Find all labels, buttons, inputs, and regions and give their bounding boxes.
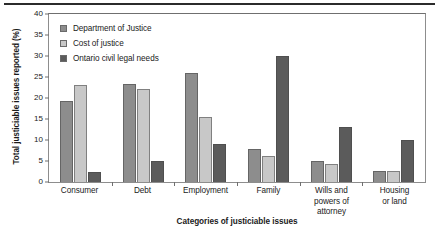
bar-groups [49, 14, 425, 182]
x-axis-label: Debt [111, 186, 174, 218]
bar [213, 144, 226, 182]
bar [387, 171, 400, 182]
bar [248, 149, 261, 182]
y-tick-label: 0 [9, 178, 49, 186]
y-tick-label: 30 [9, 52, 49, 60]
bar [88, 172, 101, 182]
x-axis-label: Housingor land [363, 186, 426, 218]
plot-area: 0510152025303540 Department of Justice C… [48, 13, 426, 183]
bar-group [49, 14, 112, 182]
bar-group [300, 14, 363, 182]
bar [373, 171, 386, 182]
bar [401, 140, 414, 182]
bar [60, 101, 73, 182]
y-tick-label: 5 [9, 157, 49, 165]
bar [185, 73, 198, 182]
x-axis-label: Consumer [48, 186, 111, 218]
x-axis-label: Wills andpowers of attorney [300, 186, 363, 218]
bar [151, 161, 164, 182]
bar [74, 85, 87, 182]
y-tick-label: 10 [9, 136, 49, 144]
bar [276, 56, 289, 182]
bar [199, 117, 212, 182]
y-tick-label: 20 [9, 94, 49, 102]
bar [123, 84, 136, 182]
bar [137, 89, 150, 182]
plot-inner: 0510152025303540 Department of Justice C… [49, 14, 425, 182]
top-divider-rule [4, 3, 435, 5]
y-tick-label: 40 [9, 10, 49, 18]
bar [262, 156, 275, 182]
bar [311, 161, 324, 182]
bar [339, 127, 352, 182]
x-axis-labels: ConsumerDebtEmploymentFamilyWills andpow… [48, 186, 426, 218]
x-axis-label: Family [237, 186, 300, 218]
bar-group [174, 14, 237, 182]
x-axis-title: Categories of justiciable issues [48, 217, 426, 226]
y-tick-label: 25 [9, 73, 49, 81]
y-tick-label: 15 [9, 115, 49, 123]
y-tick-label: 35 [9, 31, 49, 39]
chart-figure: Total justiciable issues reported (%) 05… [0, 0, 439, 245]
bar-group [112, 14, 175, 182]
bar-group [362, 14, 425, 182]
x-axis-label: Employment [174, 186, 237, 218]
bar-group [237, 14, 300, 182]
bar [325, 164, 338, 182]
